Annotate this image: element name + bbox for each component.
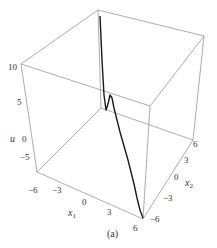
figure-caption: (a) — [107, 228, 118, 240]
x2-tick-neg3: −3 — [163, 193, 173, 203]
x2-tick-6: 6 — [193, 139, 198, 149]
x2-tick-neg6: −6 — [150, 214, 160, 224]
x2-tick-3: 3 — [184, 155, 189, 165]
u-tick-5: 5 — [17, 97, 22, 107]
u-tick-10: 10 — [8, 62, 18, 72]
u-tick-neg5: −5 — [20, 152, 30, 162]
trajectory-curve — [100, 16, 143, 218]
x1-tick-3: 3 — [107, 207, 112, 217]
x1-tick-6: 6 — [133, 223, 138, 233]
u-tick-0: 0 — [22, 134, 27, 144]
x1-tick-neg6: −6 — [28, 185, 38, 195]
x1-tick-neg3: −3 — [52, 185, 62, 195]
plot-3d: 10 5 0 −5 u −6 −3 0 3 6 x1 6 3 0 −3 −6 x… — [0, 0, 217, 248]
x1-axis-label: x1 — [67, 207, 76, 220]
x1-tick-0: 0 — [82, 197, 87, 207]
bounding-box — [21, 10, 204, 219]
x2-tick-0: 0 — [174, 172, 179, 182]
x2-axis-label: x2 — [184, 177, 193, 190]
u-axis-label: u — [10, 133, 15, 144]
